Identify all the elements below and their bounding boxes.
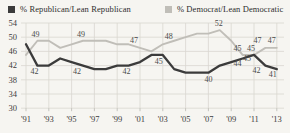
point-label: 44 [234,59,242,68]
y-tick-label: 42 [9,60,18,70]
y-tick-label: 46 [9,46,18,56]
legend-label-democrat: % Democrat/Lean Democratic [177,4,283,14]
point-label: 49 [31,30,39,39]
y-tick-label: 34 [9,89,18,99]
x-tick-label: '13 [272,114,282,124]
point-label: 47 [130,36,138,45]
x-tick-label: '09 [226,114,236,124]
chart-area: 54504642383430'91'93'95'97'99'01'03'05'0… [0,14,290,133]
point-label: 47 [268,36,276,45]
point-label: 45 [247,44,255,53]
point-label: 48 [165,32,173,41]
y-tick-label: 38 [9,75,18,85]
x-tick-label: '97 [89,114,99,124]
point-label: 47 [253,36,261,45]
point-label: 40 [204,75,212,84]
x-tick-label: '11 [249,114,259,124]
point-label: 52 [215,19,223,28]
point-label: 45 [243,54,251,63]
x-tick-label: '91 [21,114,31,124]
legend-item-democrat: % Democrat/Lean Democratic [165,4,283,14]
democrat-swatch-icon [165,6,172,13]
point-label: 42 [30,67,38,76]
y-tick-label: 54 [9,18,18,28]
x-tick-label: '93 [44,114,54,124]
x-tick-label: '03 [158,114,168,124]
x-tick-label: '95 [67,114,77,124]
party-id-chart: 54504642383430'91'93'95'97'99'01'03'05'0… [0,14,290,133]
legend-item-republican: % Republican/Lean Republican [8,4,131,14]
x-tick-label: '99 [112,114,122,124]
legend-label-republican: % Republican/Lean Republican [20,4,131,14]
point-label: 45 [234,44,242,53]
point-label: 42 [73,67,81,76]
point-label: 41 [269,70,277,79]
republican-swatch-icon [8,6,15,13]
x-tick-label: '05 [181,114,191,124]
point-label: 42 [123,67,131,76]
y-tick-label: 30 [9,103,18,113]
y-tick-label: 50 [9,32,18,42]
point-label: 45 [155,57,163,66]
point-label: 49 [77,30,85,39]
x-tick-label: '01 [135,114,145,124]
x-tick-label: '07 [203,114,213,124]
point-label: 42 [252,66,260,75]
